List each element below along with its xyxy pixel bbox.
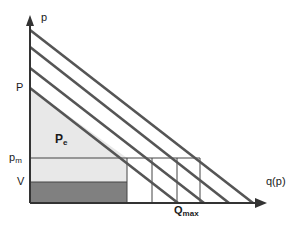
qmax-label-subscript: max — [183, 209, 199, 218]
qmax-label-base: Q — [174, 204, 183, 216]
producer-surplus-label-subscript: e — [63, 138, 67, 147]
y-axis-label: p — [41, 12, 47, 23]
value-label-V: V — [17, 176, 24, 187]
price-label-pm: pm — [9, 152, 22, 165]
producer-surplus-label: Pe — [55, 133, 67, 147]
producer-surplus-label-base: P — [55, 132, 63, 146]
producer-surplus-rect-region — [30, 158, 127, 182]
diagram-canvas — [0, 0, 298, 230]
y-axis-arrow-icon — [26, 15, 34, 26]
price-label-pm-subscript: m — [15, 156, 22, 165]
price-label-P: P — [16, 82, 23, 93]
economics-diagram: p P pm V Pe Qmax q(p) — [0, 0, 298, 230]
variable-cost-region — [30, 182, 127, 203]
x-axis-arrow-icon — [255, 198, 267, 208]
x-axis-label: q(p) — [266, 176, 286, 187]
qmax-label: Qmax — [174, 205, 199, 218]
